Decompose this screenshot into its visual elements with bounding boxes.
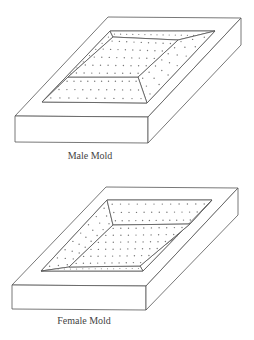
male-front-face xyxy=(15,116,148,143)
female-mold xyxy=(12,187,238,310)
molds-diagram xyxy=(0,0,254,340)
female-front-face xyxy=(12,285,146,310)
male-mold-label: Male Mold xyxy=(68,150,113,161)
female-mold-label: Female Mold xyxy=(57,315,111,326)
male-mold xyxy=(15,17,241,143)
